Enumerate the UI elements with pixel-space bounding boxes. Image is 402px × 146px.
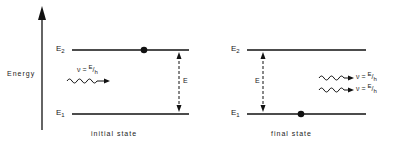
diagram-canvas: [0, 0, 402, 146]
lower-level-label: E1: [56, 108, 65, 118]
energy-gap-arrow-icon: [261, 52, 266, 112]
upper-level-label: E2: [231, 44, 240, 54]
photon-frequency-equation: ν = E/h: [356, 83, 377, 94]
electron-dot-icon: [141, 47, 148, 54]
final-state-caption: final state: [271, 130, 312, 137]
electron-dot-icon: [298, 111, 305, 118]
incoming-photon-wave-icon: [67, 79, 110, 84]
lower-level-label: E1: [231, 108, 240, 118]
initial-state-diagram: [67, 47, 189, 114]
final-state-diagram: [247, 50, 366, 117]
energy-axis-label: Energy: [7, 70, 35, 77]
energy-axis-arrow-icon: [38, 6, 46, 130]
upper-level-label: E2: [56, 44, 65, 54]
initial-state-caption: initial state: [91, 130, 137, 137]
energy-gap-label: E: [183, 77, 188, 84]
photon-frequency-equation: ν = E/h: [77, 64, 98, 75]
energy-gap-arrow-icon: [177, 52, 182, 112]
photon-frequency-equation: ν = E/h: [356, 71, 377, 82]
outgoing-photon-wave-icon: [319, 76, 354, 81]
energy-gap-label: E: [255, 77, 260, 84]
outgoing-photon-wave-icon: [319, 88, 354, 93]
